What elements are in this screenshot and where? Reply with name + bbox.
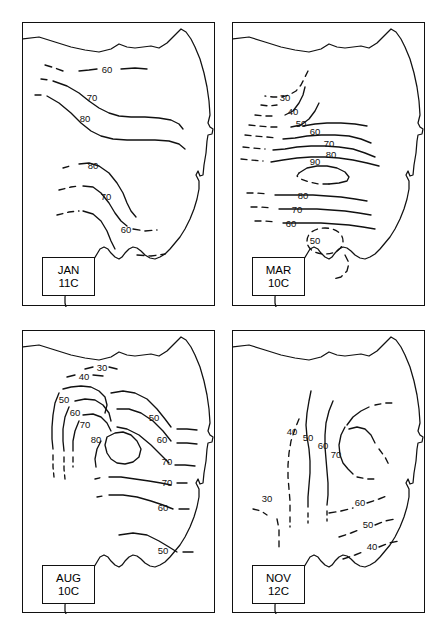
map-panel-nov: 40 50 60 70 30 60 50 40 NOV 12C	[232, 330, 425, 613]
map-panel-aug: 30 40 50 60 70 80 50 60 70 70 60 50 AUG …	[22, 330, 215, 613]
contour-40-aug-left	[67, 375, 75, 377]
contour-50-nov	[306, 391, 311, 507]
contour-label: 80	[88, 160, 99, 171]
contour-label: 60	[158, 502, 169, 513]
contour-label: 60	[318, 440, 329, 451]
contour-80-lower-mar-dash	[247, 193, 267, 194]
panel-label-box-jan: JAN 11C	[42, 257, 95, 296]
contour-label: 70	[292, 204, 303, 215]
contour-label: 70	[87, 92, 98, 103]
contour-80-lower-jan	[79, 163, 136, 217]
contour-60-lower-jan-dash	[57, 211, 79, 215]
contour-70-upper-jan	[53, 81, 183, 129]
contour-70-lower-aug-dash	[95, 477, 103, 479]
contour-70-aug-tail	[73, 421, 79, 451]
contour-label: 60	[355, 497, 366, 508]
contour-50-lower-aug	[119, 533, 177, 552]
contour-label: 60	[286, 218, 297, 229]
contour-40-aug-right	[93, 375, 103, 376]
contour-label: 40	[367, 541, 378, 552]
panel-label-box-aug: AUG 10C	[42, 565, 95, 604]
contour-50-mar-dash	[249, 125, 281, 127]
contour-60-mar-dash	[245, 135, 277, 138]
contour-30-nov-tail	[277, 519, 279, 547]
contour-30-nov	[253, 509, 267, 515]
panel-value-label: 11C	[58, 277, 78, 290]
contour-label: 60	[121, 224, 132, 235]
contour-30-aug-right	[109, 367, 117, 369]
figure-caption	[14, 619, 314, 626]
contour-60-upper-jan-right	[121, 68, 147, 69]
contour-90-mar-dash	[297, 173, 329, 184]
contour-label: 90	[310, 156, 321, 167]
contour-label: 70	[101, 191, 112, 202]
contour-50-lower-nov-dash2	[375, 519, 395, 525]
contour-label: 30	[97, 362, 108, 373]
panel-label-box-nov: NOV 12C	[252, 565, 305, 604]
contour-label: 50	[310, 235, 321, 246]
contour-label: 50	[59, 394, 70, 405]
contour-70-nov-hook	[349, 427, 375, 443]
contour-label: 50	[303, 432, 314, 443]
contour-40-lower-nov-dash	[343, 551, 365, 559]
contour-label: 70	[80, 419, 91, 430]
contour-label-group-aug: 30 40 50 60 70 80 50 60 70 70 60 50	[59, 362, 173, 556]
contour-label: 70	[331, 449, 342, 460]
map-panel-jan: 60 70 80 80 70 60 JAN 11C	[22, 22, 215, 306]
contour-label: 50	[158, 545, 169, 556]
contour-80-lower-jan-dash	[63, 165, 73, 168]
panel-value-label: 12C	[268, 585, 289, 598]
contour-70-lower-jan-tail	[133, 229, 157, 231]
contour-label: 30	[280, 92, 291, 103]
contour-60-lower-aug-dash	[97, 496, 103, 497]
contour-label: 50	[296, 118, 307, 129]
contour-label: 50	[363, 519, 374, 530]
contour-label: 70	[162, 477, 173, 488]
contour-80-lower-mar	[275, 195, 367, 201]
contour-label-group-jan: 60 70 80 80 70 60	[80, 64, 132, 235]
contour-label: 50	[149, 412, 160, 423]
contour-30-aug-left	[85, 367, 93, 369]
contour-70-lower-mar-dash	[251, 207, 271, 208]
contour-60-lower-nov-dash2	[367, 495, 389, 503]
contour-label: 80	[298, 190, 309, 201]
contour-70-aug-right-tail	[175, 465, 195, 466]
contour-label: 80	[80, 113, 91, 124]
contour-label: 80	[326, 149, 337, 160]
map-panel-mar: 30 40 50 60 70 80 90 80 70 60 50 MAR 10C	[232, 22, 425, 306]
contour-70-nov-top-dash	[375, 403, 395, 405]
contour-70-mar-dash	[243, 147, 265, 149]
contour-40-mar-dash	[255, 115, 275, 116]
contour-label: 70	[162, 456, 173, 467]
panel-month-label: JAN	[58, 264, 80, 277]
panel-value-label: 10C	[58, 585, 79, 598]
contour-80-upper-jan	[47, 96, 185, 149]
contour-70-nov-hook-dash	[379, 449, 389, 465]
contour-50-cell-outer-mar	[333, 255, 349, 279]
contour-60-upper-jan-solid	[79, 69, 97, 71]
panel-month-label: MAR	[266, 264, 292, 277]
contour-60-lower-mar-dash	[255, 221, 275, 222]
panel-month-label: NOV	[266, 572, 291, 585]
contour-60-lower-jan-tail	[137, 254, 165, 256]
contour-50-aug-right-tail	[177, 429, 197, 430]
contour-30-mar-left	[261, 105, 277, 106]
contour-label: 30	[262, 493, 273, 504]
contour-label: 70	[324, 138, 335, 149]
contour-70-upper-jan-dash	[41, 79, 49, 80]
contour-60-aug-tail-dash	[64, 457, 65, 479]
contour-80-mar-dash	[241, 159, 263, 161]
contour-label: 40	[79, 371, 90, 382]
panel-value-label: 10C	[268, 277, 289, 290]
panel-month-label: AUG	[56, 572, 81, 585]
contour-label: 60	[102, 64, 113, 75]
contour-70-nov-mid-dash	[357, 477, 377, 479]
contour-60-lower-nov-dash	[329, 508, 353, 513]
contour-label: 40	[288, 106, 299, 117]
contour-50-aug-left-dash	[53, 455, 54, 477]
contour-70-nov-top	[347, 407, 369, 425]
contour-60-lower-jan	[83, 211, 115, 249]
contour-60-aug-tail	[63, 407, 69, 451]
contour-60-aug-right-tail	[177, 443, 197, 444]
contour-label: 40	[287, 426, 298, 437]
